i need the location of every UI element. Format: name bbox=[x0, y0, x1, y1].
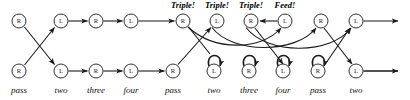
node-top-5[interactable]: L bbox=[210, 14, 224, 28]
node-top-4[interactable]: R bbox=[176, 14, 190, 28]
node-bottom-9[interactable]: L bbox=[349, 64, 363, 78]
node-bottom-7[interactable]: L bbox=[276, 64, 290, 78]
edge-b4-t5 bbox=[178, 28, 211, 65]
node-bottom-4[interactable]: R bbox=[166, 64, 180, 78]
node-circle bbox=[349, 14, 363, 28]
annotation-0: Triple! bbox=[171, 1, 195, 10]
node-circle bbox=[311, 64, 325, 78]
annotation-1: Triple! bbox=[205, 1, 229, 10]
node-circle bbox=[278, 14, 292, 28]
node-bottom-3[interactable]: L bbox=[124, 64, 138, 78]
node-circle bbox=[54, 14, 68, 28]
node-circle bbox=[89, 14, 103, 28]
node-circle bbox=[12, 64, 26, 78]
node-top-2[interactable]: R bbox=[89, 14, 103, 28]
column-label-5: two bbox=[207, 85, 220, 95]
edge-t4-down bbox=[189, 27, 211, 54]
column-label-0: pass bbox=[11, 85, 27, 95]
node-top-7[interactable]: L bbox=[278, 14, 292, 28]
node-circle bbox=[124, 14, 138, 28]
node-bottom-6[interactable]: R bbox=[242, 64, 256, 78]
node-circle bbox=[207, 64, 221, 78]
column-label-1: two bbox=[54, 85, 67, 95]
column-label-9: two bbox=[349, 85, 362, 95]
node-circle bbox=[124, 64, 138, 78]
node-circle bbox=[242, 64, 256, 78]
edges-crossing bbox=[25, 27, 353, 65]
node-bottom-0[interactable]: R bbox=[12, 64, 26, 78]
node-circle bbox=[89, 64, 103, 78]
node-bottom-2[interactable]: R bbox=[89, 64, 103, 78]
node-circle bbox=[276, 64, 290, 78]
node-circle bbox=[210, 14, 224, 28]
node-circle bbox=[54, 64, 68, 78]
node-bottom-8[interactable]: R bbox=[311, 64, 325, 78]
node-bottom-1[interactable]: L bbox=[54, 64, 68, 78]
node-top-9[interactable]: L bbox=[349, 14, 363, 28]
column-label-4: pass bbox=[165, 85, 181, 95]
column-label-3: four bbox=[123, 85, 138, 95]
node-top-1[interactable]: L bbox=[54, 14, 68, 28]
nodes-layer: RLRLRLRLRLRLRLRLRLRL bbox=[12, 14, 363, 78]
annotation-3: Feed! bbox=[275, 1, 296, 10]
self-loops bbox=[208, 56, 324, 67]
node-top-8[interactable]: R bbox=[314, 14, 328, 28]
node-circle bbox=[166, 64, 180, 78]
edges-arcs bbox=[188, 27, 351, 48]
node-circle bbox=[244, 14, 258, 28]
node-bottom-5[interactable]: L bbox=[207, 64, 221, 78]
node-circle bbox=[314, 14, 328, 28]
node-top-3[interactable]: L bbox=[124, 14, 138, 28]
node-top-6[interactable]: R bbox=[244, 14, 258, 28]
column-label-7: four bbox=[275, 85, 290, 95]
annotation-2: Triple! bbox=[239, 1, 263, 10]
node-circle bbox=[349, 64, 363, 78]
column-label-6: three bbox=[240, 85, 258, 95]
column-label-2: three bbox=[87, 85, 105, 95]
diagram-canvas: RLRLRLRLRLRLRLRLRLRL passtwothreefourpas… bbox=[0, 0, 410, 100]
node-top-0[interactable]: R bbox=[12, 14, 26, 28]
arc-t6-t9 bbox=[246, 28, 351, 49]
node-circle bbox=[12, 14, 26, 28]
column-label-8: pass bbox=[310, 85, 326, 95]
node-circle bbox=[176, 14, 190, 28]
